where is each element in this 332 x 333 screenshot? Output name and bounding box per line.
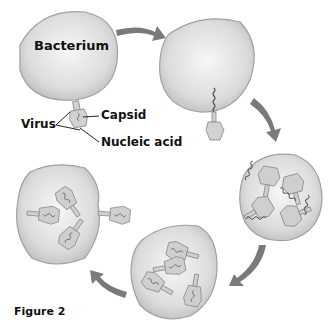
arrow-3-to-4 <box>229 245 266 286</box>
arrow-4-to-5 <box>90 270 127 298</box>
figure-caption: Figure 2 <box>14 305 65 318</box>
bacterium-label: Bacterium <box>34 38 109 53</box>
cell-stage-5 <box>17 165 131 264</box>
arrow-2-to-3 <box>250 98 281 142</box>
arrow-1-to-2 <box>116 26 166 41</box>
cell-stage-3 <box>239 154 322 240</box>
capsid-label: Capsid <box>101 108 146 122</box>
virus-label: Virus <box>21 117 56 131</box>
nucleic-acid-label: Nucleic acid <box>101 135 182 149</box>
cell-stage-2 <box>160 19 255 140</box>
cell-stage-4 <box>131 225 217 319</box>
